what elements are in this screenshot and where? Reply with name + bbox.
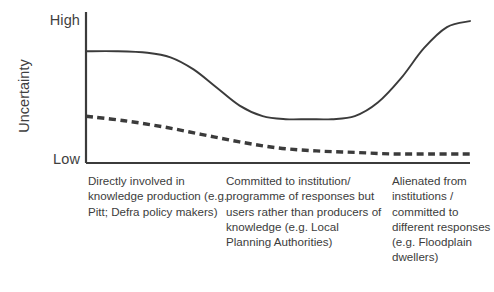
caption-group-3: Alienated from institutions / committed … [392, 173, 494, 265]
x-axis-caption-row: Directly involved in knowledge productio… [86, 173, 494, 292]
caption-group-1: Directly involved in knowledge productio… [88, 173, 228, 219]
uncertainty-chart-figure: High Low Uncertainty Directly involved i… [0, 0, 494, 292]
caption-group-2: Committed to institution/ programme of r… [226, 173, 386, 249]
dashed-uncertainty-curve [86, 116, 470, 154]
solid-uncertainty-curve [86, 21, 470, 119]
